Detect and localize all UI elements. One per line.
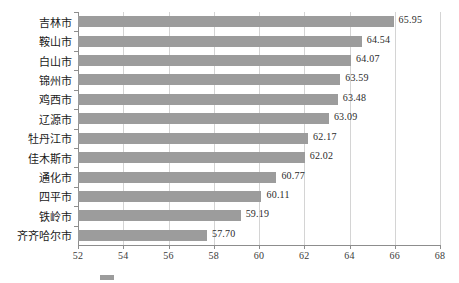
x-tick-label: 62 [299,250,309,261]
bar-value-label: 65.95 [399,14,423,25]
x-tick-label: 54 [118,250,128,261]
bar-value-label: 63.48 [343,92,367,103]
x-tick-mark [123,245,124,249]
bar[interactable] [78,36,362,47]
bar-row[interactable]: 62.02 [78,152,440,163]
x-tick-mark [440,245,441,249]
x-tick-mark [169,245,170,249]
y-axis-label-4: 鸡西市 [0,91,72,107]
bar-row[interactable]: 64.54 [78,36,440,47]
y-axis-label-5: 辽源市 [0,111,72,127]
bar[interactable] [78,230,207,241]
y-axis-label-10: 铁岭市 [0,208,72,224]
bar-value-label: 57.70 [212,228,236,239]
bar-value-label: 63.59 [345,72,369,83]
x-tick-mark [395,245,396,249]
x-tick-label: 68 [435,250,445,261]
bar[interactable] [78,152,305,163]
y-axis-label-9: 四平市 [0,188,72,204]
bar-value-label: 64.07 [356,53,380,64]
bar-value-label: 60.77 [281,170,305,181]
legend-color-swatch [100,275,114,280]
gridline [440,12,441,245]
bar[interactable] [78,133,308,144]
bar[interactable] [78,55,351,66]
bar[interactable] [78,16,394,27]
bar-row[interactable]: 60.11 [78,191,440,202]
bar-value-label: 64.54 [367,34,391,45]
bar-row[interactable]: 63.59 [78,74,440,85]
x-tick-mark [78,245,79,249]
x-tick-label: 66 [390,250,400,261]
bar-row[interactable]: 57.70 [78,230,440,241]
bar-row[interactable]: 59.19 [78,210,440,221]
bar-value-label: 59.19 [246,208,270,219]
x-tick-mark [350,245,351,249]
x-tick-mark [214,245,215,249]
bar-chart-figure: 吉林市鞍山市白山市锦州市鸡西市辽源市牡丹江市佳木斯市通化市四平市铁岭市齐齐哈尔市… [0,0,459,283]
bar[interactable] [78,210,241,221]
y-axis-label-3: 锦州市 [0,72,72,88]
y-axis-label-8: 通化市 [0,169,72,185]
bar-value-label: 60.11 [266,189,289,200]
x-tick-mark [304,245,305,249]
bar[interactable] [78,172,276,183]
bar[interactable] [78,74,340,85]
bar-row[interactable]: 64.07 [78,55,440,66]
bar-row[interactable]: 60.77 [78,172,440,183]
x-tick-label: 64 [344,250,354,261]
bar[interactable] [78,94,338,105]
y-axis-label-11: 齐齐哈尔市 [0,227,72,243]
bar-row[interactable]: 62.17 [78,133,440,144]
bar-value-label: 62.17 [313,131,337,142]
y-axis-label-2: 白山市 [0,53,72,69]
bar-value-label: 62.02 [310,150,334,161]
y-axis-label-7: 佳木斯市 [0,150,72,166]
x-tick-label: 60 [254,250,264,261]
x-tick-label: 58 [209,250,219,261]
y-axis-label-0: 吉林市 [0,14,72,30]
bar[interactable] [78,191,261,202]
bar-row[interactable]: 65.95 [78,16,440,27]
bar-row[interactable]: 63.48 [78,94,440,105]
bar[interactable] [78,113,329,124]
bar-row[interactable]: 63.09 [78,113,440,124]
x-tick-label: 56 [163,250,173,261]
y-axis-label-1: 鞍山市 [0,33,72,49]
x-tick-label: 52 [73,250,83,261]
y-axis-label-6: 牡丹江市 [0,130,72,146]
legend-caption-strip [0,272,459,283]
plot-area: 65.9564.5464.0763.5963.4863.0962.1762.02… [78,12,440,245]
x-tick-mark [259,245,260,249]
bar-value-label: 63.09 [334,111,358,122]
